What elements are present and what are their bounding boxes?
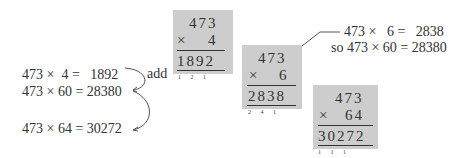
product: 2838 xyxy=(248,88,286,104)
rule-top xyxy=(247,85,296,86)
rule-bottom xyxy=(247,105,296,106)
note-line-2-text: so 473 × 60 = 28380 xyxy=(331,40,447,55)
product: 1892 xyxy=(177,53,215,69)
rule-bottom xyxy=(318,145,373,146)
carries: 1 1 1 xyxy=(318,148,350,156)
multiplier: 4 xyxy=(208,32,218,48)
multiplicand: 473 xyxy=(335,90,364,106)
multiplier: 6 xyxy=(279,67,289,83)
times-sign: × xyxy=(249,67,257,83)
rule-top xyxy=(177,50,225,51)
times-sign: × xyxy=(319,107,327,123)
carries: 2 4 1 xyxy=(248,108,280,116)
carries: 1 2 1 xyxy=(178,73,210,81)
rule-bottom xyxy=(177,70,225,71)
multiplication-box-64: 473 × 64 30272 1 1 1 xyxy=(313,85,378,149)
times-sign: × xyxy=(177,32,185,48)
product: 30272 xyxy=(318,128,366,144)
multiplicand: 473 xyxy=(258,50,287,66)
multiplication-box-4: 473 × 4 1892 1 2 1 xyxy=(173,10,233,74)
note-line-2: so 473 × 60 = 28380 xyxy=(331,40,447,56)
multiplier: 64 xyxy=(345,107,364,123)
note-line-1: 473 × 6 = 2838 xyxy=(344,24,444,40)
multiplicand: 473 xyxy=(189,15,218,31)
multiplication-box-6: 473 × 6 2838 2 4 1 xyxy=(242,45,302,109)
rule-top xyxy=(318,125,373,126)
